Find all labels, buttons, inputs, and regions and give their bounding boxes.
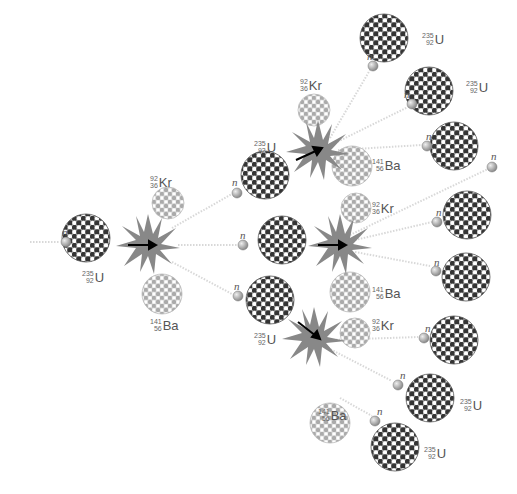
neutron-label: n xyxy=(234,280,240,292)
uranium-label: 23592U xyxy=(254,332,276,346)
neutron-label: n xyxy=(426,130,432,142)
neutron-label: n xyxy=(62,226,68,238)
krypton-label: 9236Kr xyxy=(150,175,172,189)
neutron-label: n xyxy=(232,176,238,188)
uranium-label: 23592U xyxy=(460,398,482,412)
uranium-label: 23592U xyxy=(466,80,488,94)
barium-label: 14156Ba xyxy=(372,286,401,300)
uranium-label: 23592U xyxy=(254,140,276,154)
uranium-label: 23592U xyxy=(82,270,104,284)
neutron-label: n xyxy=(425,322,431,334)
uranium-label: 23592U xyxy=(422,32,444,46)
neutron-label: n xyxy=(404,88,410,100)
neutron-label: n xyxy=(367,50,373,62)
krypton-label: 9236Kr xyxy=(300,78,322,92)
uranium-label: 23592U xyxy=(424,446,446,460)
neutron-label: n xyxy=(436,206,442,218)
uranium-nuclei xyxy=(62,14,491,471)
neutron-label: n xyxy=(400,369,406,381)
diagram-canvas xyxy=(0,0,517,494)
barium-label: 14156Ba xyxy=(318,408,347,422)
neutron-label: n xyxy=(377,405,383,417)
neutron-label: n xyxy=(434,256,440,268)
barium-label: 14156Ba xyxy=(150,318,179,332)
fission-chain-diagram: n n n n n n n n n n n n n 23592U 23592U … xyxy=(0,0,517,494)
krypton-label: 9236Kr xyxy=(372,201,394,215)
krypton-label: 9236Kr xyxy=(372,318,394,332)
barium-label: 14156Ba xyxy=(372,158,401,172)
neutron-label: n xyxy=(491,150,497,162)
neutron-label: n xyxy=(240,229,246,241)
